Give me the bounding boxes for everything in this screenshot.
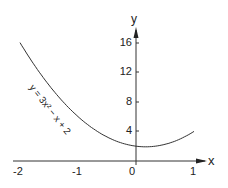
y-tick-label: 16 [112,37,132,48]
x-tick-label: 0 [129,166,135,177]
y-tick-label: 12 [112,66,132,77]
x-tick-label: -2 [13,166,23,177]
y-axis-label: y [131,13,137,25]
x-axis-arrow-icon [196,159,207,164]
y-tick-label: 8 [112,96,132,107]
x-tick-label: 1 [190,166,196,177]
y-tick-label: 4 [112,125,132,136]
x-axis-label: x [208,154,215,167]
x-tick-label: -1 [72,166,82,177]
y-axis-arrow-icon [134,27,139,38]
